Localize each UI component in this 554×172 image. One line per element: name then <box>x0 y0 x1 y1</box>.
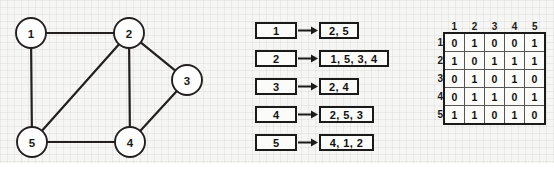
matrix-column-header-2: 2 <box>465 18 485 33</box>
matrix-cell-3-5[interactable]: 0 <box>525 70 546 88</box>
graph-edge-2-3 <box>141 42 176 70</box>
matrix-cell-2-5[interactable]: 1 <box>525 52 546 70</box>
matrix-cell-5-5[interactable]: 0 <box>525 106 546 125</box>
matrix-row-header-5: 5 <box>428 106 444 125</box>
matrix-cell-5-3[interactable]: 0 <box>485 106 505 125</box>
adjacency-list-row: 42, 5, 3 <box>255 106 374 123</box>
graph-edge-1-5 <box>31 48 32 127</box>
graph-node-label-3: 3 <box>184 75 190 87</box>
matrix-cell-2-3[interactable]: 1 <box>485 52 505 70</box>
matrix-row: 401101 <box>428 88 545 106</box>
matrix-cell-4-1[interactable]: 0 <box>444 88 465 106</box>
adjacency-neighbors-box-5[interactable]: 4, 1, 2 <box>319 134 374 151</box>
graph-node-3[interactable]: 3 <box>172 65 202 95</box>
adjacency-neighbors-box-4[interactable]: 2, 5, 3 <box>319 106 374 123</box>
graph-edge-group <box>31 33 177 142</box>
matrix-row: 301010 <box>428 70 545 88</box>
adjacency-neighbors-box-2[interactable]: 1, 5, 3, 4 <box>319 50 389 67</box>
matrix-row-header-1: 1 <box>428 33 444 52</box>
matrix-cell-4-3[interactable]: 1 <box>485 88 505 106</box>
matrix-cell-4-4[interactable]: 0 <box>505 88 525 106</box>
matrix-row-header-4: 4 <box>428 88 444 106</box>
adjacency-list-row: 12, 5 <box>255 22 359 39</box>
matrix-column-header-1: 1 <box>444 18 465 33</box>
matrix-header-row: 12345 <box>428 18 545 33</box>
arrow-right-icon <box>297 50 319 67</box>
graph-diagram-panel: 12345 <box>0 0 215 172</box>
adjacency-neighbors-box-1[interactable]: 2, 5 <box>319 22 359 39</box>
graph-edge-2-5 <box>42 44 119 131</box>
arrow-right-icon <box>297 106 319 123</box>
adjacency-key-box-4[interactable]: 4 <box>255 106 297 123</box>
matrix-row-header-3: 3 <box>428 70 444 88</box>
graph-node-label-4: 4 <box>127 137 134 149</box>
matrix-cell-1-1[interactable]: 0 <box>444 33 465 52</box>
adjacency-key-box-5[interactable]: 5 <box>255 134 297 151</box>
matrix-row: 210111 <box>428 52 545 70</box>
matrix-cell-1-5[interactable]: 1 <box>525 33 546 52</box>
matrix-cell-2-4[interactable]: 1 <box>505 52 525 70</box>
matrix-body: 101001210111301010401101511010 <box>428 33 545 124</box>
adjacency-matrix-table: 12345 101001210111301010401101511010 <box>428 18 546 125</box>
matrix-cell-1-3[interactable]: 0 <box>485 33 505 52</box>
graph-node-4[interactable]: 4 <box>115 127 145 157</box>
graph-node-1[interactable]: 1 <box>16 18 46 48</box>
matrix-column-header-3: 3 <box>485 18 505 33</box>
figure-canvas: 12345 12, 521, 5, 3, 432, 442, 5, 354, 1… <box>0 0 554 172</box>
matrix-cell-2-2[interactable]: 0 <box>465 52 485 70</box>
matrix-cell-3-1[interactable]: 0 <box>444 70 465 88</box>
arrow-right-icon <box>297 78 319 95</box>
matrix-cell-3-3[interactable]: 0 <box>485 70 505 88</box>
matrix-corner-cell <box>428 18 444 33</box>
adjacency-list-row: 54, 1, 2 <box>255 134 374 151</box>
adjacency-list-row: 21, 5, 3, 4 <box>255 50 389 67</box>
adjacency-key-box-3[interactable]: 3 <box>255 78 297 95</box>
arrow-right-icon <box>297 134 319 151</box>
adjacency-key-box-2[interactable]: 2 <box>255 50 297 67</box>
matrix-cell-1-2[interactable]: 1 <box>465 33 485 52</box>
adjacency-list-panel: 12, 521, 5, 3, 432, 442, 5, 354, 1, 2 <box>255 22 405 152</box>
matrix-cell-1-4[interactable]: 0 <box>505 33 525 52</box>
matrix-column-header-4: 4 <box>505 18 525 33</box>
graph-node-label-1: 1 <box>28 28 35 40</box>
graph-node-label-2: 2 <box>126 28 132 40</box>
matrix-cell-4-5[interactable]: 1 <box>525 88 546 106</box>
matrix-cell-5-2[interactable]: 1 <box>465 106 485 125</box>
graph-node-2[interactable]: 2 <box>114 18 144 48</box>
graph-node-5[interactable]: 5 <box>17 127 47 157</box>
graph-edge-2-4 <box>129 48 130 127</box>
adjacency-neighbors-box-3[interactable]: 2, 4 <box>319 78 359 95</box>
matrix-cell-5-1[interactable]: 1 <box>444 106 465 125</box>
matrix-cell-3-4[interactable]: 1 <box>505 70 525 88</box>
graph-edge-3-4 <box>140 91 177 131</box>
adjacency-key-box-1[interactable]: 1 <box>255 22 297 39</box>
matrix-cell-4-2[interactable]: 1 <box>465 88 485 106</box>
matrix-cell-5-4[interactable]: 1 <box>505 106 525 125</box>
graph-node-group: 12345 <box>16 18 202 157</box>
matrix-row-header-2: 2 <box>428 52 444 70</box>
matrix-column-header-5: 5 <box>525 18 546 33</box>
arrow-right-icon <box>297 22 319 39</box>
matrix-cell-3-2[interactable]: 1 <box>465 70 485 88</box>
adjacency-matrix-panel: 12345 101001210111301010401101511010 <box>428 18 546 125</box>
matrix-cell-2-1[interactable]: 1 <box>444 52 465 70</box>
graph-svg: 12345 <box>0 0 215 172</box>
matrix-row: 511010 <box>428 106 545 125</box>
graph-node-label-5: 5 <box>29 137 36 149</box>
matrix-row: 101001 <box>428 33 545 52</box>
adjacency-list-row: 32, 4 <box>255 78 359 95</box>
